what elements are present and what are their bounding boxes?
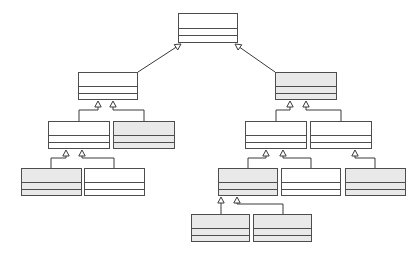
class-operations-compartment	[49, 142, 109, 149]
edge-line	[237, 203, 283, 214]
generalization-edge[interactable]	[51, 150, 69, 168]
class-operations-compartment	[276, 93, 336, 100]
hollow-triangle-arrowhead-icon	[234, 197, 240, 203]
class-operations-compartment	[219, 189, 277, 196]
class-name-compartment	[246, 122, 306, 135]
hollow-triangle-arrowhead-icon	[110, 101, 116, 107]
class-operations-compartment	[311, 142, 371, 149]
hollow-triangle-arrowhead-icon	[79, 150, 85, 156]
uml-class-box[interactable]	[84, 168, 145, 196]
class-operations-compartment	[254, 235, 311, 242]
uml-class-box[interactable]	[21, 168, 82, 196]
uml-class-box[interactable]	[310, 121, 372, 149]
generalization-edge[interactable]	[218, 197, 224, 214]
generalization-edge[interactable]	[79, 101, 101, 121]
generalization-edge[interactable]	[280, 150, 311, 168]
uml-class-box[interactable]	[78, 72, 138, 100]
uml-class-box[interactable]	[253, 214, 312, 242]
edge-line	[82, 156, 114, 168]
generalization-edge[interactable]	[235, 44, 275, 72]
hollow-triangle-arrowhead-icon	[174, 44, 181, 50]
edge-line	[240, 47, 275, 72]
hollow-triangle-arrowhead-icon	[218, 197, 224, 203]
edge-line	[138, 47, 176, 72]
generalization-edge[interactable]	[248, 150, 269, 168]
class-name-compartment	[114, 122, 174, 135]
edge-line	[79, 107, 98, 121]
class-name-compartment	[49, 122, 109, 135]
generalization-edge[interactable]	[79, 150, 114, 168]
uml-class-box[interactable]	[218, 168, 278, 196]
class-name-compartment	[276, 73, 336, 86]
generalization-edge[interactable]	[110, 101, 144, 121]
class-name-compartment	[192, 215, 249, 228]
class-attributes-compartment	[179, 28, 237, 35]
class-operations-compartment	[79, 93, 137, 100]
uml-class-box[interactable]	[191, 214, 250, 242]
generalization-edge[interactable]	[352, 150, 375, 168]
edge-line	[51, 156, 66, 168]
class-name-compartment	[254, 215, 311, 228]
edge-line	[355, 156, 375, 168]
uml-class-box[interactable]	[245, 121, 307, 149]
edge-line	[283, 156, 311, 168]
hollow-triangle-arrowhead-icon	[280, 150, 286, 156]
class-operations-compartment	[85, 189, 144, 196]
uml-class-box[interactable]	[281, 168, 341, 196]
class-name-compartment	[85, 169, 144, 182]
generalization-edge[interactable]	[276, 101, 293, 121]
edge-line	[306, 107, 341, 121]
uml-class-box[interactable]	[48, 121, 110, 149]
class-name-compartment	[282, 169, 340, 182]
hollow-triangle-arrowhead-icon	[95, 101, 101, 107]
generalization-edge[interactable]	[138, 44, 181, 72]
generalization-edge[interactable]	[234, 197, 283, 214]
hollow-triangle-arrowhead-icon	[287, 101, 293, 107]
class-name-compartment	[79, 73, 137, 86]
class-operations-compartment	[22, 189, 81, 196]
uml-class-box[interactable]	[113, 121, 175, 149]
class-name-compartment	[22, 169, 81, 182]
class-name-compartment	[219, 169, 277, 182]
uml-class-diagram	[0, 0, 420, 260]
hollow-triangle-arrowhead-icon	[263, 150, 269, 156]
edge-line	[113, 107, 144, 121]
hollow-triangle-arrowhead-icon	[352, 150, 358, 156]
uml-class-box[interactable]	[345, 168, 406, 196]
class-operations-compartment	[346, 189, 405, 196]
generalization-edge[interactable]	[303, 101, 341, 121]
class-operations-compartment	[179, 35, 237, 42]
edge-line	[248, 156, 266, 168]
hollow-triangle-arrowhead-icon	[303, 101, 309, 107]
uml-class-box[interactable]	[275, 72, 337, 100]
hollow-triangle-arrowhead-icon	[63, 150, 69, 156]
uml-class-box[interactable]	[178, 13, 238, 43]
class-name-compartment	[311, 122, 371, 135]
class-operations-compartment	[282, 189, 340, 196]
class-operations-compartment	[192, 235, 249, 242]
edge-line	[276, 107, 290, 121]
class-name-compartment	[179, 14, 237, 28]
hollow-triangle-arrowhead-icon	[235, 44, 242, 50]
class-name-compartment	[346, 169, 405, 182]
class-operations-compartment	[246, 142, 306, 149]
class-operations-compartment	[114, 142, 174, 149]
